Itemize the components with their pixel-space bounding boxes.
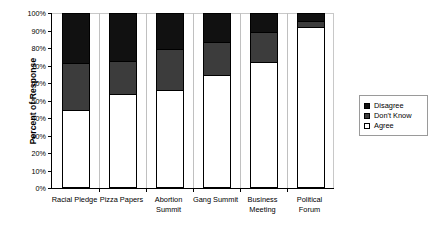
y-axis-tick-label: 90% [32, 26, 46, 35]
y-axis-tick-label: 80% [32, 44, 46, 53]
legend-label: Don't Know [374, 111, 412, 120]
y-axis-tick-label: 70% [32, 61, 46, 70]
x-axis-label: Gang Summit [192, 195, 239, 205]
y-axis-tick-label: 20% [32, 149, 46, 158]
x-axis-tick [146, 188, 147, 192]
stacked-bar[interactable] [156, 13, 184, 188]
y-axis-tick [48, 31, 52, 32]
legend-swatch-icon [364, 123, 370, 129]
category-divider [146, 13, 147, 188]
legend-item[interactable]: Don't Know [364, 111, 423, 120]
x-axis-label: Pizza Papers [98, 195, 145, 205]
category-divider [240, 13, 241, 188]
y-axis-tick [48, 83, 52, 84]
y-axis-tick [48, 171, 52, 172]
stacked-bar[interactable] [62, 13, 90, 188]
bar-segment-disagree [63, 14, 89, 63]
bar-segment-don-t-know [204, 43, 230, 75]
y-axis-tick-label: 10% [32, 166, 46, 175]
x-axis-tick [193, 188, 194, 192]
legend-item[interactable]: Agree [364, 121, 423, 130]
y-axis-tick-label: 50% [32, 96, 46, 105]
plot-area: 0%10%20%30%40%50%60%70%80%90%100% [51, 13, 334, 189]
y-axis-tick-label: 40% [32, 114, 46, 123]
bar-segment-don-t-know [63, 64, 89, 110]
y-axis-tick-label: 0% [36, 184, 46, 193]
bar-segment-agree [251, 63, 277, 188]
y-axis-tick [48, 101, 52, 102]
bar-segment-agree [298, 28, 324, 188]
legend-swatch-icon [364, 103, 370, 109]
stacked-bar[interactable] [203, 13, 231, 188]
y-axis-tick [48, 188, 52, 189]
y-axis-tick [48, 48, 52, 49]
bar-segment-disagree [110, 14, 136, 61]
stacked-bar[interactable] [250, 13, 278, 188]
bar-segment-agree [63, 111, 89, 189]
bar-segment-disagree [251, 14, 277, 32]
bar-segment-don-t-know [251, 33, 277, 63]
category-divider [99, 13, 100, 188]
y-axis-tick [48, 153, 52, 154]
bar-segment-agree [204, 76, 230, 189]
legend-item[interactable]: Disagree [364, 101, 423, 110]
x-axis-label: Abortion Summit [145, 195, 192, 215]
bar-segment-disagree [204, 14, 230, 42]
x-axis-label: Business Meeting [239, 195, 286, 215]
category-divider [193, 13, 194, 188]
bar-segment-agree [110, 95, 136, 188]
bar-segment-disagree [298, 14, 324, 21]
bar-segment-disagree [157, 14, 183, 49]
x-axis-label: Racial Pledge [51, 195, 98, 205]
stacked-bar[interactable] [109, 13, 137, 188]
y-axis-tick-label: 30% [32, 131, 46, 140]
bar-segment-don-t-know [157, 50, 183, 90]
chart-legend: DisagreeDon't KnowAgree [359, 95, 428, 136]
stacked-bar-chart: Percent of Response 0%10%20%30%40%50%60%… [0, 0, 433, 238]
bar-segment-don-t-know [110, 62, 136, 94]
y-axis-tick [48, 118, 52, 119]
x-axis-tick [99, 188, 100, 192]
x-axis-tick [240, 188, 241, 192]
y-axis-tick-label: 60% [32, 79, 46, 88]
y-axis-tick [48, 136, 52, 137]
y-axis-tick-label: 100% [28, 9, 46, 18]
bar-segment-agree [157, 91, 183, 188]
legend-label: Agree [374, 121, 394, 130]
legend-label: Disagree [374, 101, 404, 110]
x-axis-label: Political Forum [286, 195, 333, 215]
legend-swatch-icon [364, 113, 370, 119]
x-axis-tick [287, 188, 288, 192]
plot-right-border [333, 13, 334, 188]
y-axis-tick [48, 66, 52, 67]
y-axis-tick [48, 13, 52, 14]
stacked-bar[interactable] [297, 13, 325, 188]
category-divider [287, 13, 288, 188]
